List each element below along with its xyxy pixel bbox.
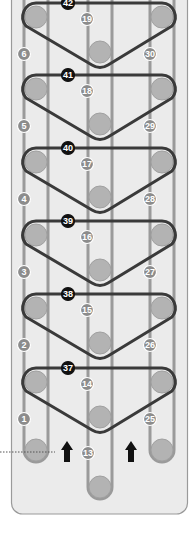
path-label-left: 1	[18, 413, 31, 426]
path-label-center: 17	[81, 158, 94, 171]
roller-left	[25, 297, 47, 319]
path-label-right: 26	[144, 339, 157, 352]
belt-label: 42	[62, 0, 75, 10]
svg-text:17: 17	[82, 159, 92, 169]
svg-text:1: 1	[21, 414, 26, 424]
svg-text:2: 2	[21, 340, 26, 350]
path-label-left: 2	[18, 339, 31, 352]
roller-center	[89, 186, 111, 208]
belt-label: 37	[62, 362, 75, 375]
roller-right	[151, 6, 173, 28]
path-label-right: 27	[144, 266, 157, 279]
roller-left	[25, 224, 47, 246]
svg-text:29: 29	[145, 121, 155, 131]
belt-label: 38	[62, 288, 75, 301]
roller-right	[151, 297, 173, 319]
svg-text:4: 4	[21, 194, 26, 204]
svg-text:39: 39	[63, 216, 73, 226]
roller-left	[25, 371, 47, 393]
svg-text:13: 13	[83, 448, 93, 458]
svg-text:38: 38	[63, 289, 73, 299]
roller-bottom-right	[151, 439, 173, 461]
path-label-center: 15	[81, 304, 94, 317]
svg-text:3: 3	[21, 267, 26, 277]
belt-diagram: 4219630411852940174283916327381522637141…	[0, 0, 192, 534]
roller-center	[89, 41, 111, 63]
roller-right	[151, 151, 173, 173]
svg-text:28: 28	[145, 194, 155, 204]
svg-text:40: 40	[63, 143, 73, 153]
svg-text:41: 41	[63, 70, 73, 80]
svg-text:5: 5	[21, 121, 26, 131]
belt-label: 40	[62, 142, 75, 155]
path-label-right: 25	[144, 413, 157, 426]
roller-center	[89, 406, 111, 428]
path-label-center: 18	[81, 85, 94, 98]
roller-left	[25, 78, 47, 100]
belt-label: 39	[62, 215, 75, 228]
roller-bottom-center	[89, 476, 111, 498]
svg-text:18: 18	[82, 86, 92, 96]
svg-text:42: 42	[63, 0, 73, 8]
path-label-right: 30	[144, 48, 157, 61]
roller-right	[151, 224, 173, 246]
roller-center	[89, 332, 111, 354]
belt-label: 41	[62, 69, 75, 82]
path-label-center: 14	[81, 378, 94, 391]
svg-text:26: 26	[145, 340, 155, 350]
roller-center	[89, 259, 111, 281]
svg-text:27: 27	[145, 267, 155, 277]
roller-left	[25, 151, 47, 173]
roller-right	[151, 78, 173, 100]
svg-text:14: 14	[82, 379, 92, 389]
roller-right	[151, 371, 173, 393]
svg-text:19: 19	[82, 14, 92, 24]
path-label-left: 5	[18, 120, 31, 133]
svg-text:6: 6	[21, 49, 26, 59]
roller-bottom-left	[25, 439, 47, 461]
diagram-panel	[12, 0, 188, 514]
path-label-center: 16	[81, 231, 94, 244]
path-label-right: 29	[144, 120, 157, 133]
svg-text:15: 15	[82, 305, 92, 315]
path-label-left: 3	[18, 266, 31, 279]
path-label-left: 6	[18, 48, 31, 61]
svg-text:16: 16	[82, 232, 92, 242]
path-label-left: 4	[18, 193, 31, 206]
svg-text:25: 25	[145, 414, 155, 424]
svg-text:30: 30	[145, 49, 155, 59]
roller-left	[25, 6, 47, 28]
roller-center	[89, 113, 111, 135]
path-label-13: 13	[82, 447, 95, 460]
path-label-right: 28	[144, 193, 157, 206]
svg-text:37: 37	[63, 363, 73, 373]
path-label-center: 19	[81, 13, 94, 26]
